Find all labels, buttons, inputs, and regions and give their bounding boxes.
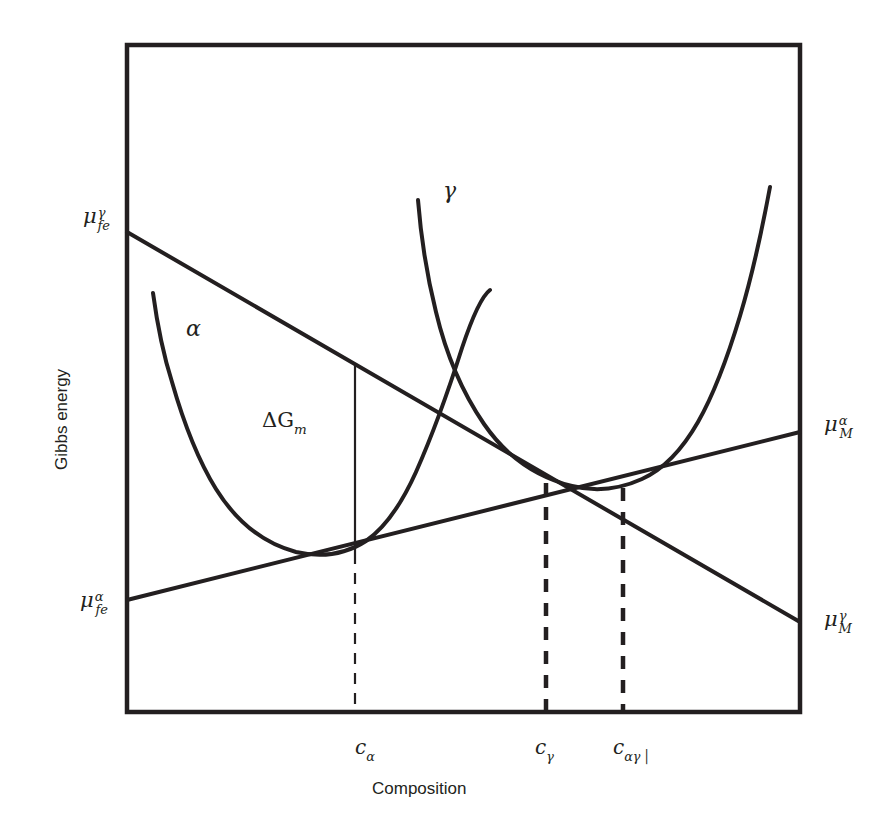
gibbs-energy-figure: μγfe μαfe μαM μγM α γ ΔGm cα cγ cαγ │ Gi…: [0, 0, 888, 833]
c-symbol: c: [355, 735, 366, 759]
delta-gm-label: ΔGm: [262, 410, 307, 435]
mu-subscript: fe: [97, 218, 110, 233]
mu-m-tangent-line: [127, 432, 800, 600]
x-tick-c-gamma: cγ: [535, 737, 554, 762]
plot-canvas: [0, 0, 888, 833]
c-subscript: α: [366, 749, 375, 764]
mu-subscript: fe: [95, 602, 108, 617]
c-symbol: c: [535, 735, 546, 759]
mu-symbol: μ: [824, 607, 838, 631]
mu-fe-alpha-label: μαfe: [80, 588, 115, 614]
y-axis-title: Gibbs energy: [52, 369, 72, 470]
mu-subscript: M: [838, 621, 851, 636]
x-axis-title: Composition: [372, 779, 467, 799]
mu-symbol: μ: [80, 588, 94, 612]
mu-m-alpha-label: μαM: [824, 412, 860, 438]
c-subscript: αγ │: [624, 749, 651, 764]
delta-g-symbol: ΔG: [262, 408, 294, 432]
x-tick-c-alpha-gamma: cαγ │: [613, 737, 651, 762]
mu-subscript: M: [839, 426, 852, 441]
mu-symbol: μ: [83, 204, 97, 228]
mu-m-gamma-label: μγM: [824, 607, 859, 633]
c-symbol: c: [613, 735, 624, 759]
gamma-free-energy-curve: [418, 187, 770, 489]
alpha-phase-label: α: [186, 318, 201, 340]
gamma-phase-label: γ: [443, 180, 456, 202]
mu-fe-gamma-label: μγfe: [83, 204, 117, 230]
plot-frame: [127, 45, 800, 712]
delta-g-subscript: m: [294, 422, 307, 437]
mu-symbol: μ: [824, 412, 838, 436]
c-subscript: γ: [546, 749, 554, 764]
x-tick-c-alpha: cα: [355, 737, 375, 762]
mu-fe-tangent-line: [127, 232, 800, 622]
